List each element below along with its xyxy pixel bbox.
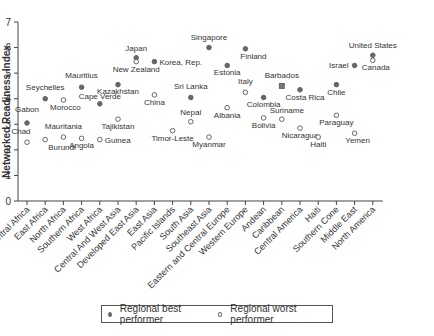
data-point-china [152,93,157,98]
y-tick-label: 7 [5,17,11,28]
data-point-mauritius [79,85,84,90]
point-label: Mauritania [45,122,83,131]
data-point-colombia [261,95,266,100]
data-point-chile [334,82,339,87]
data-point-bolivia [261,116,266,121]
data-point-yemen [352,131,357,136]
data-point-nepal [189,119,194,124]
point-label: Haiti [310,140,326,149]
chart-legend: Regional best performer Regional worst p… [101,305,333,323]
point-label: Yemen [345,136,370,145]
legend-label-best: Regional best performer [120,303,202,325]
point-label: Bolivia [252,121,276,130]
data-point-sri-lanka [189,95,194,100]
point-label: Barbados [265,71,299,80]
point-label: New Zealand [113,65,160,74]
point-label: China [144,98,165,107]
point-label: Guinea [105,136,131,145]
point-label: Mauritius [65,71,97,80]
point-label: Paraguay [319,118,353,127]
point-label: Morocco [50,103,81,112]
data-point-seychelles [43,96,48,101]
data-point-korea-rep- [152,59,157,64]
point-label: Sri Lanka [174,82,208,91]
data-point-israel [352,63,357,68]
legend-item-best: Regional best performer [108,303,202,325]
point-label: Japan [125,44,147,53]
data-point-nicaragua [298,126,303,131]
point-label: Seychelles [26,83,65,92]
data-point-morocco [61,98,66,103]
point-label: Finland [240,52,266,61]
point-label: Gabon [15,105,39,114]
data-point-timor-leste [170,128,175,133]
data-point-guinea [98,137,103,142]
point-label: Nepal [180,108,201,117]
data-point-gabon [25,121,30,126]
point-label: Chad [11,127,30,136]
hollow-circle-icon [218,312,222,317]
point-label: Angola [69,141,94,150]
data-point-finland [243,47,248,52]
point-label: Costa Rica [285,93,325,102]
point-label: Chile [327,88,346,97]
data-point-singapore [207,45,212,50]
data-point-myanmar [207,135,212,140]
point-label: Israel [329,61,349,70]
data-point-mauritania [61,135,66,140]
data-point-canada [371,58,376,63]
point-label: Timor-Leste [151,134,194,143]
point-label: Estonia [214,68,241,77]
point-label: Korea, Rep. [159,58,202,67]
filled-circle-icon [108,312,112,317]
y-tick-label: 0 [5,196,11,207]
data-point-haiti [316,135,321,140]
legend-label-worst: Regional worst performer [230,303,316,325]
data-point-albania [225,105,230,110]
data-point-angola [79,136,84,141]
data-point-estonia [225,63,230,68]
data-point-united-states [371,53,376,58]
data-point-tajikistan [116,117,121,122]
point-label: Myanmar [192,140,226,149]
data-point-cape-verde [98,102,103,107]
data-point-suriname [280,117,285,122]
point-label: Canada [362,63,391,72]
data-point-barbados [279,83,284,88]
point-label: United States [349,41,397,50]
point-label: Albania [214,111,241,120]
legend-item-worst: Regional worst performer [218,303,316,325]
data-point-burundi [43,137,48,142]
data-point-new-zealand [134,59,139,64]
scatter-chart: 01234567Networked Readiness IndexCentral… [0,0,434,300]
point-label: Singapore [191,33,228,42]
point-label: Tajikistan [102,122,135,131]
data-point-costa-rica [298,87,303,92]
point-label: Suriname [270,106,305,115]
point-label: Italy [238,77,253,86]
point-label: Kazakhstan [97,87,139,96]
y-axis-title: Networked Readiness Index [1,45,12,178]
point-label: Nicaragua [282,131,319,140]
data-point-paraguay [334,113,339,118]
data-point-chad [25,140,30,145]
data-point-italy [243,90,248,95]
